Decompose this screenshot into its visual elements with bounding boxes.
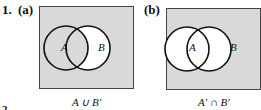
venn-diagram-b bbox=[165, 9, 261, 90]
set-a-label-a: A bbox=[61, 41, 68, 53]
set-b-label-b: B bbox=[230, 41, 237, 53]
caption-a: A ∪ B′ bbox=[72, 96, 101, 109]
next-problem-number: 2. bbox=[2, 103, 10, 110]
venn-diagram-a bbox=[40, 7, 134, 89]
caption-b: A′ ∩ B′ bbox=[198, 96, 230, 108]
venn-diagrams bbox=[0, 0, 261, 110]
set-b-label-a: B bbox=[98, 41, 105, 53]
set-a-label-b: A bbox=[189, 41, 196, 53]
